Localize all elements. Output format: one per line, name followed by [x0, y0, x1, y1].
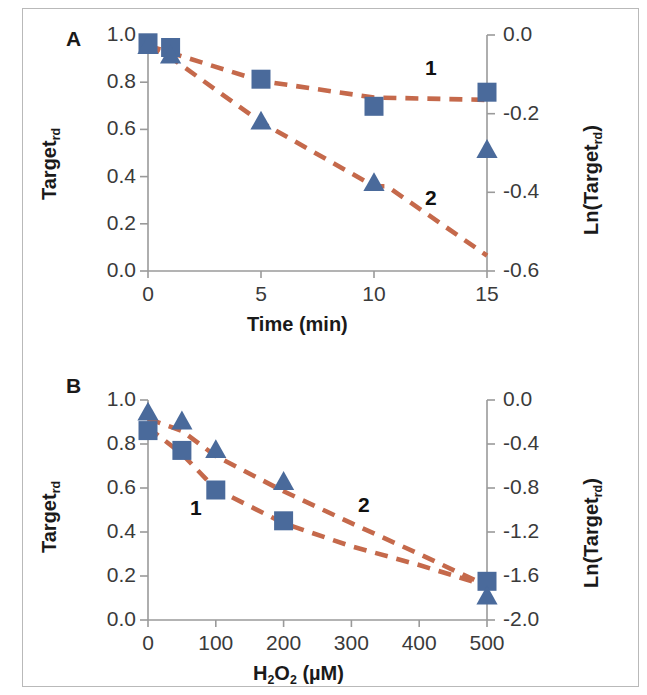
panel-b-y2tick-3: -0.8: [503, 475, 539, 499]
panel-b-ytick-6: 0.0: [82, 607, 136, 631]
panel-a-ytick-5: 0.2: [82, 211, 136, 235]
figure-root: A: [0, 0, 647, 695]
panel-a-xtick-2: 5: [231, 282, 291, 306]
panel-a-xtick-4: 15: [457, 282, 517, 306]
panel-b-ytick-4: 0.4: [82, 519, 136, 543]
panel-a-y2tick-1: 0.0: [503, 22, 532, 46]
panel-a-series-1-label: 1: [425, 56, 437, 80]
panel-b-y2tick-2: -0.4: [503, 431, 539, 455]
panel-b-series-2-label: 2: [358, 493, 370, 517]
panel-b-xtick-3: 200: [254, 631, 314, 655]
panel-b-y2tick-4: -1.2: [503, 519, 539, 543]
panel-b-y2tick-6: -2.0: [503, 607, 539, 631]
panel-b-y-axis-title: Targetrd: [38, 481, 61, 553]
panel-a-ytick-4: 0.4: [82, 164, 136, 188]
panel-b-series-1-label: 1: [190, 496, 202, 520]
panel-b-ytick-2: 0.8: [82, 431, 136, 455]
panel-b-xtick-5: 400: [389, 631, 449, 655]
panel-a: A: [0, 0, 647, 348]
panel-a-ytick-6: 0.0: [82, 258, 136, 282]
panel-b-ytick-5: 0.2: [82, 563, 136, 587]
panel-b-xtick-2: 100: [186, 631, 246, 655]
panel-b-xtick-4: 300: [321, 631, 381, 655]
panel-b: B: [0, 348, 647, 695]
panel-a-ytick-2: 0.8: [82, 69, 136, 93]
panel-a-ytick-1: 1.0: [82, 22, 136, 46]
panel-a-y2-axis-title: Ln(Targetrd): [580, 125, 603, 235]
panel-b-x-axis-title: H2O2 (µM): [253, 662, 344, 685]
panel-b-xtick-1: 0: [118, 631, 178, 655]
panel-a-y-axis-title: Targetrd: [38, 128, 61, 200]
panel-a-ytick-3: 0.6: [82, 116, 136, 140]
panel-a-y2tick-4: -0.6: [503, 258, 539, 282]
panel-b-y2-axis-title: Ln(Targetrd): [580, 478, 603, 588]
panel-a-xtick-3: 10: [344, 282, 404, 306]
panel-a-series-2-label: 2: [425, 186, 437, 210]
panel-b-ytick-3: 0.6: [82, 475, 136, 499]
panel-b-xtick-6: 500: [457, 631, 517, 655]
panel-b-y2tick-1: 0.0: [503, 387, 532, 411]
panel-a-y2tick-3: -0.4: [503, 179, 539, 203]
panel-a-x-axis-title: Time (min): [247, 313, 348, 336]
panel-a-xtick-1: 0: [118, 282, 178, 306]
panel-b-y2tick-5: -1.6: [503, 563, 539, 587]
panel-b-ytick-1: 1.0: [82, 387, 136, 411]
panel-a-y2tick-2: -0.2: [503, 101, 539, 125]
